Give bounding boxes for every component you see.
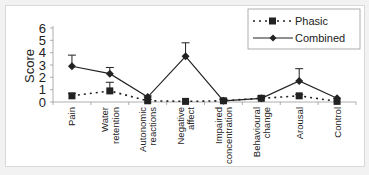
square-marker-icon [296,92,303,99]
legend-label-combined: Combined [295,32,345,44]
svg-text:Behavioural: Behavioural [251,107,262,157]
line-chart: 0123456 Score PainWaterretentionAutonomi… [0,0,369,175]
diamond-marker-icon [295,77,303,85]
svg-text:concentration: concentration [223,107,234,164]
legend: Phasic Combined [248,9,360,49]
x-tick-label: Arousal [294,107,305,139]
y-tick-label: 6 [39,21,46,36]
svg-text:change: change [261,107,272,138]
svg-text:Impaired: Impaired [213,107,224,144]
square-marker-icon [68,92,75,99]
x-tick-label: Negativeaffect [175,107,197,145]
x-axis: PainWaterretentionAutonomicreactionsNega… [53,102,356,164]
x-tick-label: Waterretention [99,107,121,144]
diamond-marker-icon [68,62,76,70]
svg-text:reactions: reactions [147,107,158,146]
svg-text:Control: Control [332,107,343,138]
square-marker-icon [106,87,113,94]
y-axis-label: Score [22,49,37,83]
series-phasic [68,82,341,105]
svg-text:Water: Water [99,107,110,132]
svg-text:Pain: Pain [66,107,77,126]
x-tick-label: Control [332,107,343,138]
svg-text:Autonomic: Autonomic [137,107,148,152]
svg-text:affect: affect [185,107,196,130]
x-tick-label: Behaviouralchange [251,107,273,157]
square-marker-icon [269,18,276,25]
square-marker-icon [182,98,189,105]
y-axis: 0123456 [39,21,53,110]
x-tick-label: Impairedconcentration [213,107,235,164]
svg-text:Arousal: Arousal [294,107,305,139]
svg-text:retention: retention [110,107,121,144]
x-tick-label: Autonomicreactions [137,107,159,152]
legend-label-phasic: Phasic [295,15,329,27]
diamond-marker-icon [106,70,114,78]
x-tick-label: Pain [66,107,77,126]
svg-text:Negative: Negative [175,107,186,145]
